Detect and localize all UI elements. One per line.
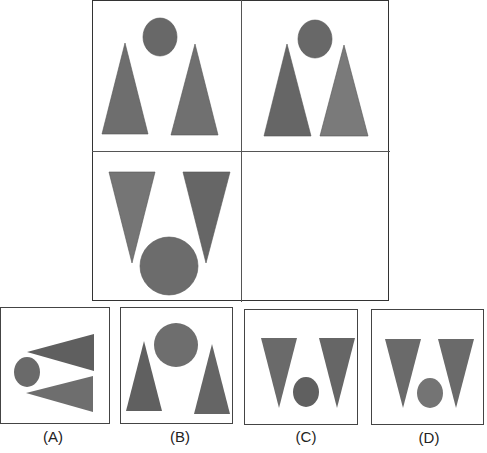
option-a-shapes — [14, 334, 94, 412]
circle-shape — [417, 378, 443, 408]
triangle-up-shape — [194, 344, 230, 414]
option-c-label: (C) — [286, 428, 326, 445]
circle-shape — [14, 357, 40, 387]
option-d-label: (D) — [409, 429, 449, 446]
circle-shape — [154, 323, 198, 367]
option-shapes — [0, 0, 487, 453]
option-a-label: (A) — [33, 428, 73, 445]
circle-shape — [293, 377, 319, 407]
option-b-label: (B) — [160, 428, 200, 445]
option-c-shapes — [261, 338, 355, 408]
triangle-down-shape — [319, 338, 355, 408]
triangle-down-shape — [438, 339, 474, 408]
triangle-down-shape — [261, 338, 297, 408]
triangle-down-shape — [385, 339, 421, 408]
option-d-shapes — [385, 339, 474, 408]
option-b-shapes — [126, 323, 230, 414]
